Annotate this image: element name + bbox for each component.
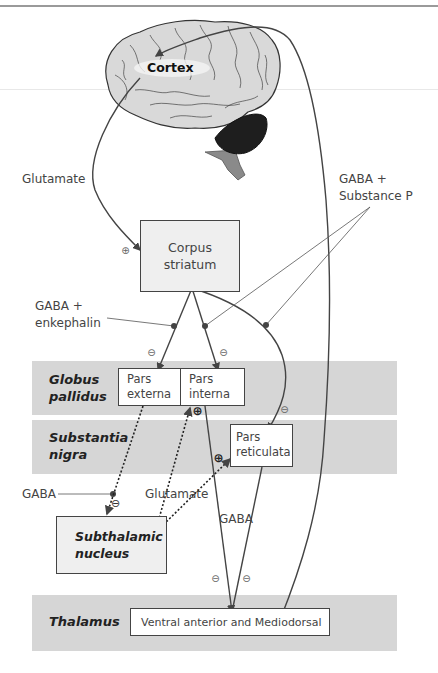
excitatory-symbol-interna: ⊕ <box>192 406 203 417</box>
node-subthalamic-nucleus: Subthalamic nucleus <box>56 516 167 574</box>
cortex-label: Cortex <box>147 60 193 75</box>
inhibitory-symbol-reticulata: ⊖ <box>279 405 290 416</box>
substantia-line2: nigra <box>49 446 128 463</box>
corpus-striatum-line1: Corpus <box>141 239 239 256</box>
pars-externa-line1: Pars <box>127 372 180 387</box>
gaba-enk-line1: GABA + <box>35 298 101 315</box>
label-gaba-substance-p: GABA + Substance P <box>339 171 413 205</box>
region-label-globus-pallidus: Globus pallidus <box>49 371 107 405</box>
label-glutamate-stn: Glutamate <box>145 486 208 502</box>
subthalamic-line2: nucleus <box>75 545 166 562</box>
pars-reticulata-line1: Pars <box>236 430 292 445</box>
node-pars-externa: Pars externa <box>118 368 181 406</box>
inhibitory-symbol-interna: ⊖ <box>218 348 229 359</box>
corpus-striatum-line2: striatum <box>141 256 239 273</box>
gaba-sp-line2: Substance P <box>339 188 413 205</box>
label-gaba-stn: GABA <box>22 486 56 502</box>
node-corpus-striatum: Corpus striatum <box>140 220 240 292</box>
label-gaba-enkephalin: GABA + enkephalin <box>35 298 101 332</box>
inhibitory-symbol-thalamus-left: ⊖ <box>210 574 221 585</box>
pars-reticulata-line2: reticulata <box>236 445 292 460</box>
inhibitory-symbol-thalamus-right: ⊖ <box>241 574 252 585</box>
pars-interna-line1: Pars <box>189 372 244 387</box>
pars-interna-line2: interna <box>189 387 244 402</box>
region-label-thalamus: Thalamus <box>49 613 120 630</box>
inhibitory-symbol-externa: ⊖ <box>146 348 157 359</box>
inhibitory-symbol-stn: ⊖ <box>110 499 121 510</box>
node-ventral-anterior-mediodorsal: Ventral anterior and Mediodorsal <box>130 608 330 636</box>
top-divider <box>0 5 438 7</box>
label-glutamate-cortex: Glutamate <box>22 171 85 187</box>
node-pars-interna: Pars interna <box>180 368 245 406</box>
gaba-enk-line2: enkephalin <box>35 315 101 332</box>
pars-externa-line2: externa <box>127 387 180 402</box>
thalamus-nucleus-label: Ventral anterior and Mediodorsal <box>141 616 322 629</box>
globus-line1: Globus <box>49 371 107 388</box>
globus-line2: pallidus <box>49 388 107 405</box>
label-gaba-thalamus: GABA <box>219 511 253 527</box>
excitatory-symbol-reticulata: ⊕ <box>213 453 224 464</box>
substantia-line1: Substantia <box>49 429 128 446</box>
gaba-sp-line1: GABA + <box>339 171 413 188</box>
node-pars-reticulata: Pars reticulata <box>230 424 293 467</box>
excitatory-symbol-striatum: ⊕ <box>120 246 131 257</box>
region-label-substantia-nigra: Substantia nigra <box>49 429 128 463</box>
subthalamic-line1: Subthalamic <box>75 528 166 545</box>
faint-divider <box>0 89 438 90</box>
